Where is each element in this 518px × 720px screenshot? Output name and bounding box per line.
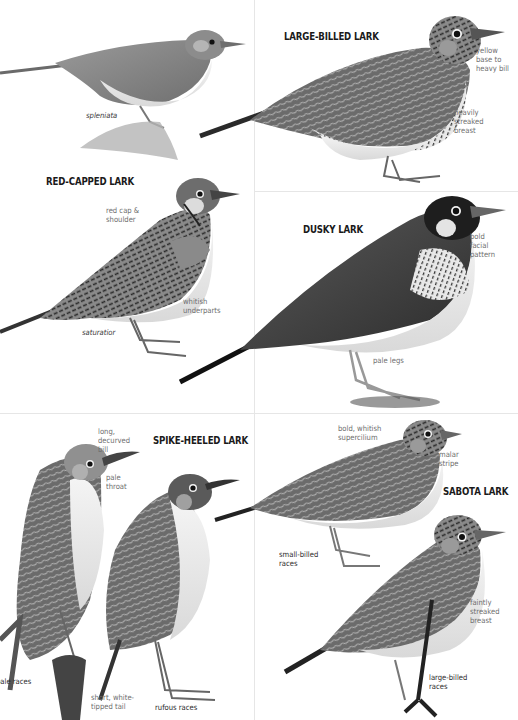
note-long-decurved-bill: long, decurved bill <box>98 427 130 454</box>
note-red-cap-shoulder: red cap & shoulder <box>106 206 139 224</box>
bird-spike-heeled-rufous <box>100 474 240 700</box>
note-whitish-underparts: whitish underparts <box>183 297 221 315</box>
species-title-large-billed-lark: LARGE-BILLED LARK <box>284 30 379 42</box>
bird-spleniata <box>0 30 246 160</box>
race-label-small-billed-races: small-billed races <box>279 550 318 568</box>
species-title-spike-heeled-lark: SPIKE-HEELED LARK <box>153 434 248 446</box>
plate-illustrations <box>0 0 518 720</box>
race-label-pale-races: pale races <box>0 677 31 686</box>
species-title-dusky-lark: DUSKY LARK <box>303 223 363 235</box>
note-pale-legs: pale legs <box>373 356 404 365</box>
note-yellow-base-bill: yellow base to heavy bill <box>476 46 509 73</box>
bird-red-capped-lark <box>0 178 240 356</box>
note-faintly-streaked-breast: faintly streaked breast <box>470 598 500 625</box>
note-malar-stripe: malar stripe <box>439 450 459 468</box>
note-bold-facial-pattern: bold facial pattern <box>470 232 495 259</box>
species-title-sabota-lark: SABOTA LARK <box>443 485 508 497</box>
race-label-rufous-races: rufous races <box>155 703 197 712</box>
species-title-red-capped-lark: RED-CAPPED LARK <box>46 175 134 187</box>
race-label-spleniata: spleniata <box>86 111 117 120</box>
race-label-large-billed-races: large-billed races <box>429 673 467 691</box>
note-short-white-tipped-tail: short, white- tipped tail <box>91 693 134 711</box>
note-pale-throat: pale throat <box>106 473 127 491</box>
race-label-saturatior: saturatior <box>82 328 115 337</box>
note-bold-whitish-supercilium: bold, whitish supercilium <box>338 424 381 442</box>
note-heavily-streaked-breast: heavily streaked breast <box>454 108 484 135</box>
